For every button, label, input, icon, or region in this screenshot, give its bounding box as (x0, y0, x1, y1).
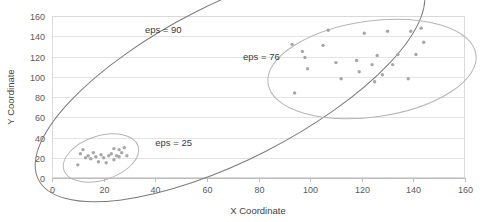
data-point (334, 61, 337, 64)
x-axis-ticks: 020406080100120140160 (50, 178, 473, 195)
x-tick-label-60: 60 (202, 185, 212, 195)
data-point (76, 163, 79, 166)
data-point (326, 28, 329, 31)
x-tick-label-140: 140 (406, 185, 421, 195)
data-point (97, 160, 100, 163)
data-point (112, 147, 115, 150)
x-tick-label-80: 80 (254, 185, 264, 195)
x-tick-label-160: 160 (458, 185, 473, 195)
data-point (363, 32, 366, 35)
data-point (102, 156, 105, 159)
data-point (117, 155, 120, 158)
y-tick-label-160: 160 (30, 12, 45, 22)
data-point (117, 148, 120, 151)
data-point (110, 152, 113, 155)
data-point (99, 153, 102, 156)
data-point (293, 91, 296, 94)
data-point (419, 26, 422, 29)
data-point (94, 155, 97, 158)
y-tick-label-0: 0 (40, 174, 45, 184)
data-point (303, 56, 306, 59)
x-tick-label-120: 120 (355, 185, 370, 195)
data-point (339, 77, 342, 80)
data-point (370, 63, 373, 66)
data-point (123, 146, 126, 149)
data-point (355, 59, 358, 62)
y-axis-title: Y Coordinate (5, 69, 16, 124)
data-point (376, 54, 379, 57)
x-axis-title: X Coordinate (230, 205, 285, 216)
data-point (391, 63, 394, 66)
data-point (386, 29, 389, 32)
data-point (81, 148, 84, 151)
y-axis-ticks: 020406080100120140160 (30, 12, 45, 184)
scatter-chart: 020406080100120140160 020406080100120140… (0, 0, 488, 222)
data-point (125, 154, 128, 157)
data-point (321, 44, 324, 47)
data-point (290, 43, 293, 46)
data-point (357, 70, 360, 73)
data-point (381, 73, 384, 76)
data-point (409, 29, 412, 32)
data-point (120, 151, 123, 154)
data-point (414, 53, 417, 56)
data-point (422, 41, 425, 44)
annotation-label-eps-25: eps = 25 (155, 137, 192, 148)
data-point (407, 77, 410, 80)
data-point (301, 50, 304, 53)
data-point (396, 53, 399, 56)
annotation-label-eps-76: eps = 76 (243, 51, 280, 62)
data-point (86, 154, 89, 157)
y-tick-label-60: 60 (35, 113, 45, 123)
data-point (89, 157, 92, 160)
data-point (112, 158, 115, 161)
data-point (373, 80, 376, 83)
y-tick-label-140: 140 (30, 32, 45, 42)
y-tick-label-80: 80 (35, 93, 45, 103)
x-tick-label-100: 100 (303, 185, 318, 195)
y-tick-label-120: 120 (30, 53, 45, 63)
data-point (306, 67, 309, 70)
annotation-label-eps-90: eps = 90 (145, 24, 182, 35)
x-tick-label-20: 20 (99, 185, 109, 195)
data-point (92, 151, 95, 154)
y-tick-label-40: 40 (35, 134, 45, 144)
chart-canvas: 020406080100120140160 020406080100120140… (0, 0, 488, 222)
data-point (105, 161, 108, 164)
y-tick-label-100: 100 (30, 73, 45, 83)
data-point (79, 152, 82, 155)
